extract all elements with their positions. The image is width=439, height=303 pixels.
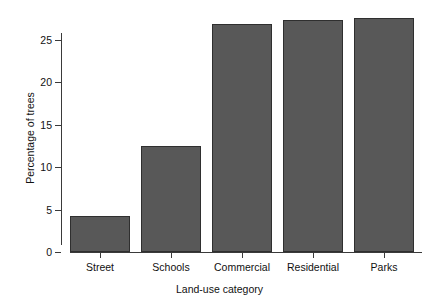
- bar-parks: [354, 18, 414, 252]
- x-tick-label-schools: Schools: [152, 261, 189, 273]
- x-axis-line: [70, 252, 422, 253]
- y-tick-label-text: 0: [4, 247, 52, 257]
- y-tick-mark: [55, 40, 61, 41]
- plot-area: 0510152025 StreetSchoolsCommercialReside…: [0, 0, 439, 303]
- y-tick-mark: [55, 210, 61, 211]
- y-tick-mark: [55, 82, 61, 83]
- bar-chart: 0510152025 StreetSchoolsCommercialReside…: [0, 0, 439, 303]
- x-axis-title: Land-use category: [0, 283, 439, 295]
- bar-residential: [283, 20, 343, 252]
- y-tick-mark: [55, 252, 61, 253]
- y-tick-label-text: 25: [4, 35, 52, 45]
- y-tick-label: 25: [0, 35, 52, 45]
- y-tick-mark: [55, 125, 61, 126]
- x-tick-label-residential: Residential: [287, 261, 339, 273]
- y-axis-title: Percentage of trees: [24, 48, 36, 228]
- y-axis-line: [61, 33, 62, 245]
- x-tick-label-street: Street: [86, 261, 114, 273]
- x-tick-mark: [313, 252, 314, 258]
- x-tick-mark: [242, 252, 243, 258]
- bar-commercial: [212, 24, 272, 252]
- y-tick-label: 0: [0, 247, 52, 257]
- x-tick-mark: [100, 252, 101, 258]
- bar-schools: [141, 146, 201, 252]
- x-tick-label-commercial: Commercial: [214, 261, 270, 273]
- x-tick-mark: [171, 252, 172, 258]
- y-tick-mark: [55, 167, 61, 168]
- x-tick-mark: [384, 252, 385, 258]
- bar-street: [70, 216, 130, 252]
- x-tick-label-parks: Parks: [371, 261, 398, 273]
